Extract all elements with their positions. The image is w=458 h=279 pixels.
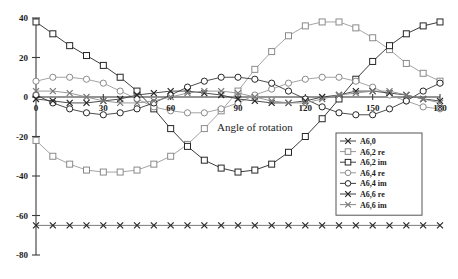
x-tick-label: 30 <box>99 103 109 113</box>
data-point-marker <box>134 167 140 173</box>
data-point-marker <box>420 23 426 29</box>
data-point-marker <box>201 110 207 116</box>
data-point-marker <box>319 116 325 122</box>
data-point-marker <box>387 43 393 49</box>
data-point-marker <box>218 106 224 112</box>
data-point-marker <box>302 76 308 82</box>
data-point-marker <box>345 159 351 165</box>
data-point-marker <box>117 88 123 94</box>
data-point-marker <box>84 167 90 173</box>
x-tick-label: 60 <box>166 103 176 113</box>
data-point-marker <box>345 170 351 176</box>
data-point-marker <box>386 106 392 112</box>
data-point-marker <box>319 74 325 80</box>
data-point-marker <box>67 106 73 112</box>
data-point-marker <box>437 19 443 25</box>
data-point-marker <box>353 112 359 118</box>
data-point-marker <box>286 149 292 155</box>
data-point-marker <box>336 110 342 116</box>
data-point-marker <box>134 106 140 112</box>
x-tick-label: 120 <box>299 103 313 113</box>
data-point-marker <box>100 62 106 68</box>
data-point-marker <box>345 181 351 187</box>
data-point-marker <box>420 70 426 76</box>
y-tick-label: 20 <box>19 53 29 63</box>
x-tick-label: 0 <box>34 103 39 113</box>
data-point-marker <box>437 80 443 86</box>
data-point-marker <box>201 78 207 84</box>
data-point-marker <box>50 74 56 80</box>
data-point-marker <box>185 143 191 149</box>
legend-label: A6,0 <box>360 137 376 146</box>
data-point-marker <box>33 78 39 84</box>
data-point-marker <box>319 19 325 25</box>
data-point-marker <box>33 19 39 25</box>
y-tick-label: 40 <box>19 13 29 23</box>
data-point-marker <box>67 161 73 167</box>
data-point-marker <box>168 126 174 132</box>
data-point-marker <box>336 74 342 80</box>
x-axis-title: Angle of rotation <box>217 121 293 133</box>
data-point-marker <box>269 80 275 86</box>
legend-label: A6,6 im <box>360 201 387 210</box>
legend-label: A6,4 im <box>360 179 387 188</box>
data-point-marker <box>286 33 292 39</box>
data-point-marker <box>235 169 241 175</box>
data-point-marker <box>285 88 291 94</box>
data-point-marker <box>50 31 56 37</box>
data-point-marker <box>83 76 89 82</box>
data-point-marker <box>184 110 190 116</box>
data-point-marker <box>151 161 157 167</box>
data-point-marker <box>269 86 275 92</box>
data-point-marker <box>201 157 207 163</box>
legend-label: A6,6 re <box>360 190 385 199</box>
x-tick-label: 150 <box>366 103 380 113</box>
y-tick-label: 0 <box>24 92 29 102</box>
data-point-marker <box>319 104 325 110</box>
data-point-marker <box>84 53 90 59</box>
data-point-marker <box>252 167 258 173</box>
data-point-marker <box>252 76 258 82</box>
data-point-marker <box>117 110 123 116</box>
data-point-marker <box>370 58 376 64</box>
data-point-marker <box>269 49 275 55</box>
data-point-marker <box>420 88 426 94</box>
data-point-marker <box>100 80 106 86</box>
data-point-marker <box>345 149 351 155</box>
x-tick-label: 180 <box>433 103 447 113</box>
data-point-marker <box>218 165 224 171</box>
data-point-marker <box>420 104 426 110</box>
data-point-marker <box>100 169 106 175</box>
data-point-marker <box>201 126 207 132</box>
chart-figure: 40200-20-40-60-800306090120150180Angle o… <box>0 0 458 279</box>
data-point-marker <box>285 80 291 86</box>
legend-label: A6,2 im <box>360 158 387 167</box>
x-tick-label: 90 <box>234 103 244 113</box>
data-point-marker <box>67 74 73 80</box>
chart-series <box>33 222 443 228</box>
y-tick-label: -80 <box>16 250 28 260</box>
data-point-marker <box>302 23 308 29</box>
y-tick-label: -20 <box>16 132 28 142</box>
data-point-marker <box>403 60 409 66</box>
data-point-marker <box>353 25 359 31</box>
data-point-marker <box>403 98 409 104</box>
data-point-marker <box>336 19 342 25</box>
data-point-marker <box>67 43 73 49</box>
data-point-marker <box>252 66 258 72</box>
data-point-marker <box>218 74 224 80</box>
data-point-marker <box>33 137 39 143</box>
legend-label: A6,2 re <box>360 148 385 157</box>
data-point-marker <box>353 78 359 84</box>
chart-legend: A6,0A6,2 reA6,2 imA6,4 reA6,4 imA6,6 reA… <box>336 133 422 215</box>
data-point-marker <box>117 74 123 80</box>
chart-plot-area: 40200-20-40-60-800306090120150180Angle o… <box>0 0 458 279</box>
y-tick-label: -60 <box>16 211 28 221</box>
data-point-marker <box>269 161 275 167</box>
y-tick-label: -40 <box>16 171 28 181</box>
data-point-marker <box>370 35 376 41</box>
legend-label: A6,4 re <box>360 169 385 178</box>
data-point-marker <box>50 153 56 159</box>
data-point-marker <box>302 134 308 140</box>
data-point-marker <box>168 153 174 159</box>
